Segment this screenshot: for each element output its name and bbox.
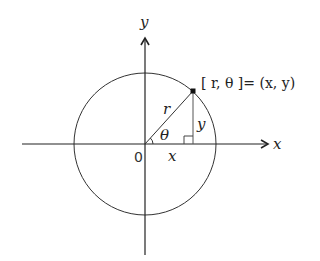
right-angle-marker — [184, 136, 193, 144]
angle-label: θ — [160, 126, 169, 144]
x-axis-label: x — [273, 135, 282, 153]
point-label: [ r, θ ]= (x, y) — [201, 75, 295, 91]
y-leg-label: y — [196, 115, 206, 133]
polar-diagram: y x 0 r θ y x [ r, θ ]= (x, y) — [0, 0, 320, 261]
x-leg-label: x — [168, 147, 177, 165]
y-axis-label: y — [139, 13, 149, 31]
radius-label: r — [163, 100, 171, 118]
angle-arc — [150, 138, 153, 144]
origin-label: 0 — [134, 149, 143, 165]
point-marker — [191, 89, 196, 94]
